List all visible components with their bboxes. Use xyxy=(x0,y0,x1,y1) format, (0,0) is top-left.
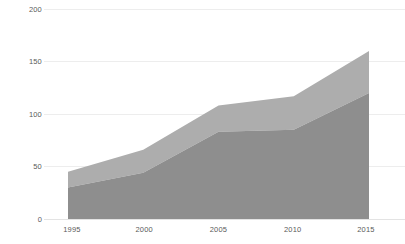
x-tick-label-2010: 2010 xyxy=(268,226,318,234)
stacked-area-series xyxy=(0,0,405,244)
x-tick-label-2005: 2005 xyxy=(194,226,244,234)
y-tick-label-100: 100 xyxy=(6,111,42,119)
x-tick-label-2015: 2015 xyxy=(341,226,391,234)
x-tick-label-1995: 1995 xyxy=(47,226,97,234)
y-tick-label-200: 200 xyxy=(6,6,42,14)
plot-area: 200 150 100 50 0 1995 2000 2005 2010 201… xyxy=(0,0,405,244)
y-tick-label-50: 50 xyxy=(6,163,42,171)
area-chart: 200 150 100 50 0 1995 2000 2005 2010 201… xyxy=(0,0,405,244)
x-tick-label-2000: 2000 xyxy=(119,226,169,234)
y-tick-label-0: 0 xyxy=(6,216,42,224)
y-tick-label-150: 150 xyxy=(6,58,42,66)
